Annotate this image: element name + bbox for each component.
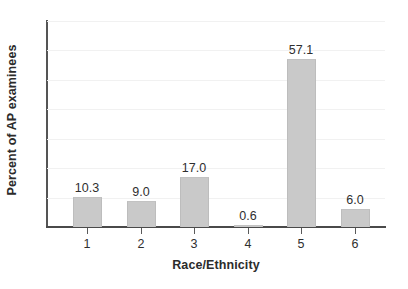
- gridline: [47, 109, 385, 110]
- bar-value-label: 17.0: [168, 161, 220, 175]
- x-axis-tick: [248, 228, 249, 234]
- bar-value-label: 10.3: [61, 181, 113, 195]
- bar-value-label: 6.0: [329, 193, 381, 207]
- bar-value-label: 57.1: [275, 43, 327, 57]
- x-axis-tick-label: 4: [228, 237, 268, 251]
- bar: [73, 197, 102, 227]
- gridline: [47, 50, 385, 51]
- x-axis-tick: [355, 228, 356, 234]
- bar: [180, 177, 209, 227]
- bar: [234, 225, 263, 227]
- y-axis-title-text: Percent of AP examinees: [5, 45, 19, 196]
- gridline: [47, 21, 385, 22]
- x-axis-tick: [194, 228, 195, 234]
- gridline: [47, 80, 385, 81]
- y-axis-title: Percent of AP examinees: [0, 0, 24, 240]
- x-axis-tick-label: 1: [67, 237, 107, 251]
- x-axis-tick-label: 2: [121, 237, 161, 251]
- x-axis-tick: [141, 228, 142, 234]
- x-axis-tick: [87, 228, 88, 234]
- x-axis-tick: [301, 228, 302, 234]
- bar-chart-figure: Percent of AP examinees 10.3 9.0 17.0 0.…: [0, 0, 408, 289]
- plot-area: 10.3 9.0 17.0 0.6 57.1 6.0: [47, 21, 385, 227]
- x-axis-tick-label: 5: [281, 237, 321, 251]
- bar-value-label: 9.0: [115, 185, 167, 199]
- x-axis-tick-label: 6: [335, 237, 375, 251]
- x-axis-title: Race/Ethnicity: [47, 258, 385, 272]
- gridline: [47, 139, 385, 140]
- bar: [341, 209, 370, 227]
- bar-value-label: 0.6: [222, 209, 274, 223]
- x-axis-tick-label: 3: [174, 237, 214, 251]
- bar: [127, 201, 156, 227]
- bar: [287, 59, 316, 227]
